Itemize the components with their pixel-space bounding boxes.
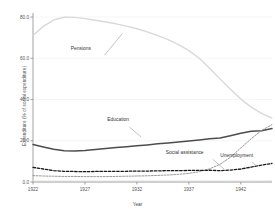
annotation-leader-line (130, 127, 141, 137)
annotation-pensions: Pensions (71, 46, 92, 51)
series-line-unemployment (33, 163, 272, 171)
annotation-education: Education (107, 117, 129, 122)
x-axis-label: Year (0, 202, 275, 207)
annotation-social-assistance: Social assistance (166, 150, 204, 155)
x-axis-tick-label: 1922 (28, 187, 39, 192)
chart-figure: 0.020.040.060.080.019221927193219371942P… (0, 0, 275, 211)
annotation-leader-line (213, 159, 224, 169)
y-axis-label: Expenditure (% of social expenditure) (22, 46, 27, 166)
x-axis-tick-label: 1937 (184, 187, 195, 192)
x-axis-tick-label: 1942 (236, 187, 247, 192)
y-axis-label-container: Expenditure (% of social expenditure) (8, 0, 22, 211)
series-line-pensions (33, 17, 272, 118)
x-axis-tick-label: 1932 (132, 187, 143, 192)
x-axis-tick-label: 1927 (80, 187, 91, 192)
annotation-leader-line (105, 34, 123, 55)
series-line-education (33, 129, 272, 151)
y-axis-tick-label: 0.0 (22, 180, 29, 185)
annotation-unemployment: Unemployment (220, 153, 254, 158)
plot-canvas: 0.020.040.060.080.019221927193219371942P… (0, 0, 275, 211)
line-chart-svg: 0.020.040.060.080.019221927193219371942P… (0, 0, 275, 211)
